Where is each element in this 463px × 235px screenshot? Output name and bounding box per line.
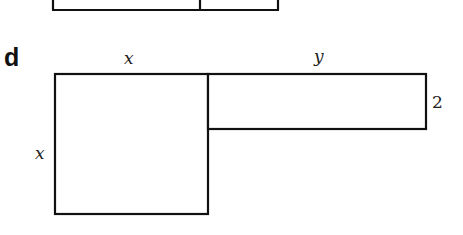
rectangle-top-label: y: [313, 46, 324, 66]
previous-figure-fragment: [52, 0, 279, 10]
diagram-canvas: d x x y 2: [0, 0, 463, 235]
rectangle-y-by-2: [208, 74, 426, 129]
square-x-by-x: [55, 74, 208, 214]
square-side-label: x: [35, 143, 45, 163]
square-top-label: x: [124, 48, 134, 68]
rectangle-side-label: 2: [432, 92, 443, 112]
part-label: d: [4, 43, 19, 71]
